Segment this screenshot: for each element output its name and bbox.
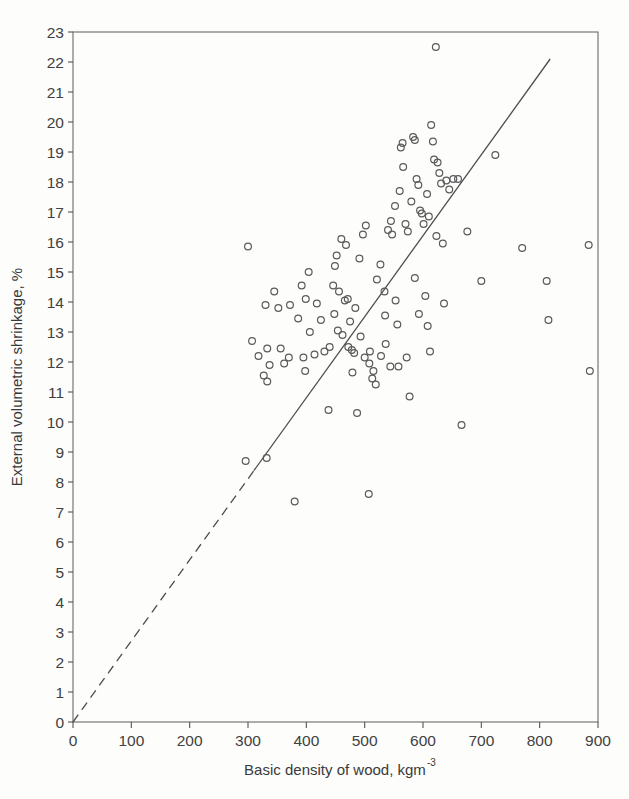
data-point: [331, 311, 338, 318]
x-tick-label: 500: [352, 732, 378, 749]
data-point: [291, 498, 298, 505]
data-point: [404, 228, 411, 235]
data-point: [387, 363, 394, 370]
data-point: [347, 318, 354, 325]
data-point: [428, 122, 435, 129]
data-point: [360, 231, 367, 238]
data-point: [402, 221, 409, 228]
data-point: [332, 263, 339, 270]
data-point: [343, 242, 350, 249]
y-tick-label: 3: [55, 624, 64, 641]
data-point: [441, 300, 448, 307]
data-point: [242, 458, 249, 465]
data-point: [396, 188, 403, 195]
y-tick-label: 10: [47, 414, 65, 431]
data-point: [255, 353, 262, 360]
data-point: [366, 360, 373, 367]
y-tick-label: 17: [47, 204, 64, 221]
data-point: [464, 228, 471, 235]
plot-frame: [73, 32, 598, 722]
y-tick-label: 7: [55, 504, 64, 521]
plot-border: [73, 32, 598, 722]
data-point: [275, 305, 282, 312]
data-point: [333, 252, 340, 259]
data-point: [262, 302, 269, 309]
data-point: [330, 282, 337, 289]
data-point: [492, 152, 499, 159]
data-point: [478, 278, 485, 285]
data-point: [406, 393, 413, 400]
y-tick-label: 22: [47, 54, 64, 71]
data-point: [443, 177, 450, 184]
data-point: [543, 278, 550, 285]
data-point: [338, 236, 345, 243]
data-point: [336, 288, 343, 295]
y-tick-label: 20: [47, 114, 65, 131]
data-point: [287, 302, 294, 309]
data-point: [339, 332, 346, 339]
y-axis-ticks: 01234567891011121314151617181920212223: [47, 24, 73, 731]
y-tick-label: 6: [55, 534, 64, 551]
data-point: [416, 311, 423, 318]
data-point: [245, 243, 252, 250]
data-point: [352, 305, 359, 312]
y-tick-label: 14: [47, 294, 65, 311]
data-point: [436, 170, 443, 177]
y-tick-label: 0: [55, 714, 64, 731]
data-point: [374, 276, 381, 283]
x-axis-ticks: 0100200300400500600700800900: [69, 722, 612, 749]
x-tick-label: 100: [118, 732, 144, 749]
regression-line: [73, 59, 550, 722]
x-tick-label: 800: [527, 732, 553, 749]
data-point: [378, 353, 385, 360]
data-point: [271, 288, 278, 295]
data-point: [361, 354, 368, 361]
data-points: [242, 44, 593, 505]
data-point: [424, 323, 431, 330]
data-point: [394, 321, 401, 328]
y-tick-label: 12: [47, 354, 64, 371]
data-point: [433, 233, 440, 240]
x-tick-label: 400: [293, 732, 319, 749]
data-point: [455, 176, 462, 183]
y-tick-label: 2: [55, 654, 64, 671]
data-point: [430, 138, 437, 145]
y-tick-label: 19: [47, 144, 64, 161]
y-tick-label: 18: [47, 174, 64, 191]
y-tick-label: 5: [55, 564, 64, 581]
data-point: [432, 44, 439, 51]
data-point: [311, 351, 318, 358]
data-point: [318, 317, 325, 324]
data-point: [422, 293, 429, 300]
data-point: [300, 354, 307, 361]
chart-figure: 01234567891011121314151617181920212223 0…: [0, 0, 629, 799]
data-point: [356, 255, 363, 262]
data-point: [305, 269, 312, 276]
data-point: [395, 363, 402, 370]
data-point: [586, 368, 593, 375]
data-point: [403, 354, 410, 361]
data-point: [264, 378, 271, 385]
y-tick-label: 15: [47, 264, 64, 281]
x-tick-label: 600: [410, 732, 436, 749]
x-axis-label-superscript: -3: [427, 757, 436, 768]
y-tick-label: 4: [55, 594, 64, 611]
regression-line-dashed: [73, 471, 254, 722]
data-point: [427, 348, 434, 355]
data-point: [249, 338, 256, 345]
data-point: [458, 422, 465, 429]
data-point: [362, 222, 369, 229]
data-point: [277, 345, 284, 352]
y-tick-label: 13: [47, 324, 64, 341]
data-point: [397, 144, 404, 151]
y-tick-label: 16: [47, 234, 64, 251]
data-point: [298, 282, 305, 289]
data-point: [354, 410, 361, 417]
data-point: [357, 333, 364, 340]
data-point: [266, 362, 273, 369]
x-axis-label: Basic density of wood, kgm: [244, 761, 426, 778]
data-point: [411, 275, 418, 282]
data-point: [400, 164, 407, 171]
scatter-plot: 01234567891011121314151617181920212223 0…: [0, 0, 629, 799]
data-point: [302, 368, 309, 375]
